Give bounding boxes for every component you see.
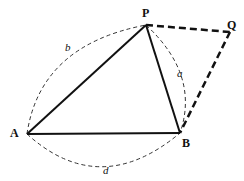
vertex-label-Q: Q (227, 18, 236, 32)
segment-PB (146, 25, 180, 133)
side-label-b: b (65, 41, 71, 53)
vertex-label-B: B (182, 136, 190, 150)
geometry-diagram: P Q A B b a d (0, 0, 244, 181)
segment-QB (180, 32, 230, 133)
segment-PQ (146, 25, 230, 32)
side-label-a: a (177, 67, 183, 79)
segment-AP (27, 25, 146, 134)
arc-d (27, 133, 180, 167)
vertex-label-P: P (142, 6, 149, 20)
side-label-d: d (103, 164, 109, 176)
vertex-label-A: A (10, 126, 19, 140)
segment-AB (27, 133, 180, 134)
